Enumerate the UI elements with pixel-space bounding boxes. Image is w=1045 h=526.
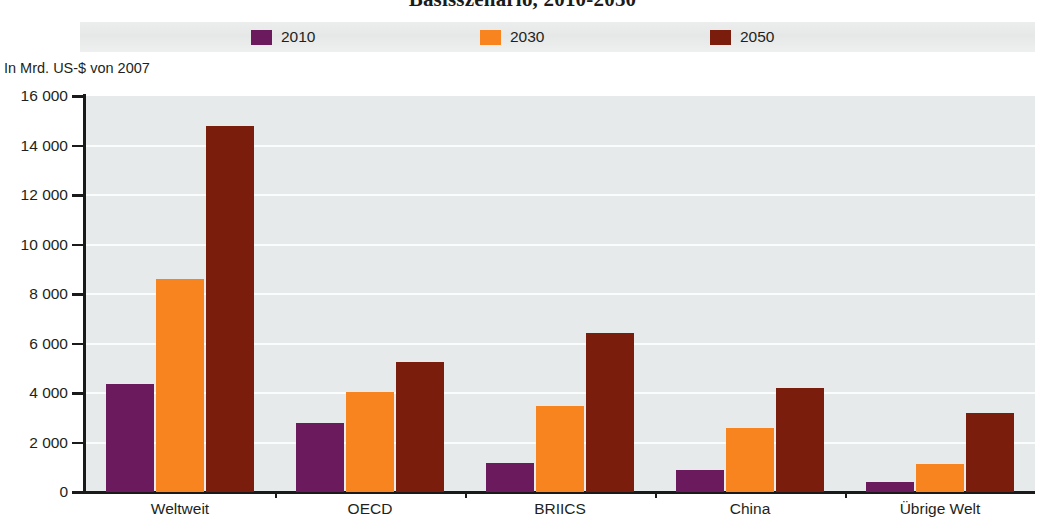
y-axis-tick xyxy=(72,244,84,247)
legend-swatch-icon-2010 xyxy=(251,30,272,45)
y-axis-tick xyxy=(72,442,84,445)
y-axis-tick-label: 12 000 xyxy=(0,187,68,203)
bar[interactable] xyxy=(966,413,1014,492)
x-axis-group-tick xyxy=(465,491,467,498)
bar[interactable] xyxy=(776,388,824,492)
y-axis-unit-label: In Mrd. US-$ von 2007 xyxy=(4,60,150,76)
bar[interactable] xyxy=(866,482,914,492)
bar[interactable] xyxy=(346,392,394,492)
y-axis-tick xyxy=(72,392,84,395)
y-axis-tick xyxy=(72,343,84,346)
bar[interactable] xyxy=(296,423,344,492)
legend-label-2010: 2010 xyxy=(281,29,315,45)
y-axis-tick-label: 2 000 xyxy=(0,435,68,451)
y-axis-tick-label: 16 000 xyxy=(0,88,68,104)
legend-item-2010[interactable]: 2010 xyxy=(251,26,315,48)
legend-label-2030: 2030 xyxy=(510,29,544,45)
y-axis-tick-label: 14 000 xyxy=(0,138,68,154)
y-axis-tick xyxy=(72,293,84,296)
x-axis-group-tick xyxy=(275,491,277,498)
x-axis-category-label: Übrige Welt xyxy=(845,500,1035,518)
y-axis-tick-label: 10 000 xyxy=(0,237,68,253)
x-axis-group-tick xyxy=(655,491,657,498)
bar[interactable] xyxy=(156,279,204,492)
x-axis-category-label: China xyxy=(655,500,845,518)
y-axis-tick xyxy=(72,145,84,148)
legend-item-2050[interactable]: 2050 xyxy=(710,26,774,48)
x-axis-group-tick xyxy=(845,491,847,498)
legend-swatch-icon-2050 xyxy=(710,30,731,45)
legend-label-2050: 2050 xyxy=(740,29,774,45)
chart-legend: 2010 2030 2050 xyxy=(80,22,1035,52)
bar[interactable] xyxy=(536,406,584,492)
y-axis-tick-label: 6 000 xyxy=(0,336,68,352)
bar[interactable] xyxy=(676,470,724,492)
page-title: Basisszenario, 2010-2050 xyxy=(0,0,1045,12)
y-axis-tick-label: 0 xyxy=(0,484,68,500)
x-axis-category-label: OECD xyxy=(275,500,465,518)
bar[interactable] xyxy=(726,428,774,492)
legend-item-2030[interactable]: 2030 xyxy=(480,26,544,48)
y-axis-tick xyxy=(72,194,84,197)
y-axis-tick xyxy=(72,95,84,98)
bar[interactable] xyxy=(106,384,154,492)
bar[interactable] xyxy=(916,464,964,492)
x-axis-category-label: BRIICS xyxy=(465,500,655,518)
y-axis-tick-label: 8 000 xyxy=(0,286,68,302)
bar[interactable] xyxy=(486,463,534,492)
y-axis-tick-label: 4 000 xyxy=(0,385,68,401)
bar[interactable] xyxy=(206,126,254,492)
bar[interactable] xyxy=(586,333,634,492)
y-axis-tick xyxy=(72,491,84,494)
bar[interactable] xyxy=(396,362,444,492)
x-axis-category-label: Weltweit xyxy=(85,500,275,518)
legend-swatch-icon-2030 xyxy=(480,30,501,45)
